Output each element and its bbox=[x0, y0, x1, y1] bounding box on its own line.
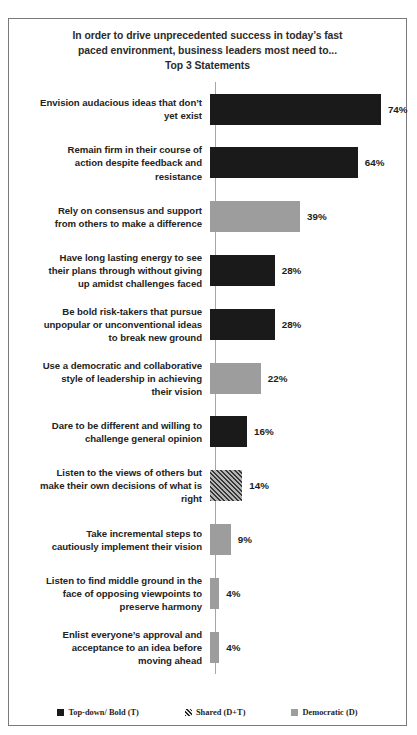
bar-topdown[interactable] bbox=[210, 309, 275, 340]
chart-frame: In order to drive unprecedented success … bbox=[8, 18, 407, 726]
bar-row: Dare to be different and willing tochall… bbox=[9, 405, 406, 459]
bar-category-label-line: Envision audacious ideas that don’t bbox=[9, 96, 202, 109]
bar-category-label-line: Dare to be different and willing to bbox=[9, 419, 202, 432]
bar-value-label: 28% bbox=[282, 265, 302, 276]
bar-category-label-line: unpopular or unconventional ideas bbox=[9, 318, 202, 331]
bar-track: 39% bbox=[209, 201, 406, 232]
bar-category-label-line: Use a democratic and collaborative bbox=[9, 359, 202, 372]
bar-row: Have long lasting energy to seetheir pla… bbox=[9, 244, 406, 298]
legend-swatch-topdown-icon bbox=[57, 709, 64, 716]
bar-category-label-line: up amidst challenges faced bbox=[9, 277, 202, 290]
bar-row: Use a democratic and collaborativestyle … bbox=[9, 351, 406, 405]
bar-category-label: Dare to be different and willing tochall… bbox=[9, 419, 209, 445]
bar-category-label-line: make their own decisions of what is bbox=[9, 479, 202, 492]
bar-value-label: 64% bbox=[365, 157, 385, 168]
bar-track: 4% bbox=[209, 632, 406, 663]
bar-track: 4% bbox=[209, 578, 406, 609]
bar-row: Be bold risk-takers that pursueunpopular… bbox=[9, 297, 406, 351]
bar-value-label: 4% bbox=[226, 642, 240, 653]
bar-category-label-line: action despite feedback and bbox=[9, 156, 202, 169]
bar-category-label-line: their plans through without giving bbox=[9, 264, 202, 277]
bar-value-label: 14% bbox=[249, 480, 269, 491]
bar-democratic[interactable] bbox=[210, 578, 219, 609]
bar-category-label: Rely on consensus and supportfrom others… bbox=[9, 204, 209, 230]
bar-topdown[interactable] bbox=[210, 147, 358, 178]
bar-category-label-line: resistance bbox=[9, 170, 202, 183]
bar-value-label: 9% bbox=[238, 534, 252, 545]
chart-title-line-1: In order to drive unprecedented success … bbox=[35, 29, 380, 44]
bar-category-label-line: Remain firm in their course of bbox=[9, 143, 202, 156]
bar-value-label: 39% bbox=[307, 211, 327, 222]
chart-legend: Top-down/ Bold (T)Shared (D+T)Democratic… bbox=[9, 708, 406, 717]
bar-row: Enlist everyone’s approval andacceptance… bbox=[9, 620, 406, 674]
bar-row: Listen to the views of others butmake th… bbox=[9, 459, 406, 513]
bar-category-label-line: Take incremental steps to bbox=[9, 527, 202, 540]
bars-container: Envision audacious ideas that don’tyet e… bbox=[9, 82, 406, 674]
bar-row: Rely on consensus and supportfrom others… bbox=[9, 190, 406, 244]
legend-swatch-shared-icon bbox=[185, 709, 192, 716]
bar-category-label-line: moving ahead bbox=[9, 654, 202, 667]
bar-row: Remain firm in their course ofaction des… bbox=[9, 136, 406, 190]
bar-category-label-line: right bbox=[9, 492, 202, 505]
bar-category-label-line: yet exist bbox=[9, 109, 202, 122]
bar-value-label: 74% bbox=[388, 104, 408, 115]
bar-category-label-line: preserve harmony bbox=[9, 600, 202, 613]
bar-category-label-line: to break new ground bbox=[9, 331, 202, 344]
chart-title-line-2: paced environment, business leaders most… bbox=[35, 44, 380, 59]
bar-category-label-line: face of opposing viewpoints to bbox=[9, 587, 202, 600]
bar-democratic[interactable] bbox=[210, 363, 261, 394]
bar-category-label: Remain firm in their course ofaction des… bbox=[9, 143, 209, 182]
bar-value-label: 28% bbox=[282, 319, 302, 330]
bar-row: Take incremental steps tocautiously impl… bbox=[9, 513, 406, 567]
bar-track: 16% bbox=[209, 416, 406, 447]
legend-item-shared[interactable]: Shared (D+T) bbox=[185, 708, 246, 717]
chart-title-line-3: Top 3 Statements bbox=[35, 59, 380, 74]
bar-track: 28% bbox=[209, 255, 406, 286]
plot-area: Envision audacious ideas that don’tyet e… bbox=[9, 82, 406, 674]
bar-category-label-line: Enlist everyone’s approval and bbox=[9, 628, 202, 641]
bar-democratic[interactable] bbox=[210, 201, 300, 232]
bar-category-label-line: their vision bbox=[9, 385, 202, 398]
bar-category-label: Take incremental steps tocautiously impl… bbox=[9, 527, 209, 553]
bar-topdown[interactable] bbox=[210, 255, 275, 286]
bar-category-label: Have long lasting energy to seetheir pla… bbox=[9, 251, 209, 290]
bar-track: 22% bbox=[209, 363, 406, 394]
bar-democratic[interactable] bbox=[210, 632, 219, 663]
bar-track: 9% bbox=[209, 524, 406, 555]
bar-category-label-line: cautiously implement their vision bbox=[9, 540, 202, 553]
legend-item-topdown[interactable]: Top-down/ Bold (T) bbox=[57, 708, 138, 717]
bar-row: Envision audacious ideas that don’tyet e… bbox=[9, 82, 406, 136]
chart-title: In order to drive unprecedented success … bbox=[9, 19, 406, 73]
legend-label: Shared (D+T) bbox=[196, 708, 246, 717]
bar-category-label-line: acceptance to an idea before bbox=[9, 641, 202, 654]
legend-label: Democratic (D) bbox=[302, 708, 357, 717]
legend-item-democratic[interactable]: Democratic (D) bbox=[291, 708, 357, 717]
bar-track: 14% bbox=[209, 470, 406, 501]
bar-topdown[interactable] bbox=[210, 416, 247, 447]
bar-category-label-line: from others to make a difference bbox=[9, 217, 202, 230]
bar-topdown[interactable] bbox=[210, 94, 381, 125]
legend-swatch-democratic-icon bbox=[291, 709, 298, 716]
bar-value-label: 16% bbox=[254, 426, 274, 437]
bar-track: 64% bbox=[209, 147, 406, 178]
bar-category-label: Use a democratic and collaborativestyle … bbox=[9, 359, 209, 398]
bar-category-label-line: Have long lasting energy to see bbox=[9, 251, 202, 264]
bar-category-label: Be bold risk-takers that pursueunpopular… bbox=[9, 305, 209, 344]
bar-value-label: 4% bbox=[226, 588, 240, 599]
bar-category-label: Listen to find middle ground in theface … bbox=[9, 574, 209, 613]
bar-track: 74% bbox=[209, 94, 408, 125]
bar-category-label-line: style of leadership in achieving bbox=[9, 372, 202, 385]
bar-democratic[interactable] bbox=[210, 524, 231, 555]
bar-row: Listen to find middle ground in theface … bbox=[9, 566, 406, 620]
bar-shared[interactable] bbox=[210, 470, 242, 501]
bar-category-label-line: Listen to find middle ground in the bbox=[9, 574, 202, 587]
bar-category-label: Envision audacious ideas that don’tyet e… bbox=[9, 96, 209, 122]
bar-category-label: Listen to the views of others butmake th… bbox=[9, 466, 209, 505]
bar-category-label-line: Listen to the views of others but bbox=[9, 466, 202, 479]
bar-value-label: 22% bbox=[268, 373, 288, 384]
legend-label: Top-down/ Bold (T) bbox=[68, 708, 138, 717]
bar-category-label-line: Be bold risk-takers that pursue bbox=[9, 305, 202, 318]
bar-category-label: Enlist everyone’s approval andacceptance… bbox=[9, 628, 209, 667]
bar-category-label-line: challenge general opinion bbox=[9, 432, 202, 445]
bar-track: 28% bbox=[209, 309, 406, 340]
